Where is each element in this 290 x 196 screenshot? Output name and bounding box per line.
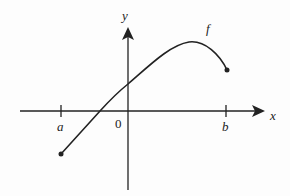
graph-figure: x y 0 a b f [0, 0, 290, 196]
endpoint-a-dot [59, 152, 64, 157]
b-label: b [222, 119, 229, 134]
origin-label: 0 [115, 116, 122, 131]
function-curve [61, 42, 227, 154]
y-axis-label: y [120, 8, 128, 23]
graph-canvas: x y 0 a b f [0, 0, 290, 196]
function-label: f [206, 21, 212, 36]
x-axis-label: x [269, 108, 276, 123]
endpoint-b-dot [225, 68, 230, 73]
a-label: a [57, 119, 64, 134]
